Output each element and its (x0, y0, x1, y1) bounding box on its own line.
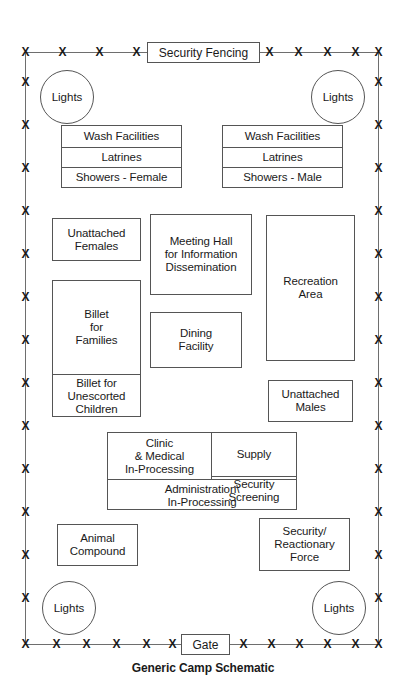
fence-post: X (322, 638, 333, 651)
clinic-medical-cell: Clinic & Medical In-Processing (108, 433, 212, 479)
lights-label: Lights (324, 602, 355, 614)
fence-post: X (322, 46, 333, 59)
animal-compound-box: Animal Compound (57, 524, 138, 566)
fence-post: X (373, 592, 384, 605)
lights-label: Lights (52, 91, 83, 103)
fence-post: X (20, 420, 31, 433)
fence-post: X (373, 119, 384, 132)
fence-post: X (167, 638, 178, 651)
fence-post: X (20, 162, 31, 175)
fence-post: X (373, 334, 384, 347)
lights-top-right: Lights (311, 70, 365, 124)
lights-bottom-left: Lights (42, 581, 96, 635)
fence-post: X (51, 638, 62, 651)
security-fencing-label: Security Fencing (147, 42, 260, 63)
fence-post: X (373, 377, 384, 390)
security-reactionary-force-box: Security/ Reactionary Force (259, 518, 350, 571)
showers-female-row: Showers - Female (62, 167, 181, 187)
recreation-area-box: Recreation Area (266, 215, 355, 361)
lights-label: Lights (323, 91, 354, 103)
fence-post: X (20, 291, 31, 304)
fence-post: X (20, 506, 31, 519)
unattached-males-box: Unattached Males (268, 380, 353, 422)
diagram-caption: Generic Camp Schematic (0, 661, 406, 675)
fence-post: X (373, 46, 384, 59)
fence-post: X (373, 205, 384, 218)
wash-facilities-female-block: Wash Facilities Latrines Showers - Femal… (61, 125, 182, 188)
fence-post: X (373, 420, 384, 433)
generic-camp-schematic: X X X X X X X X X X X X X X X X X X X X … (0, 0, 406, 700)
latrines-row: Latrines (223, 147, 342, 167)
wash-facilities-row: Wash Facilities (223, 126, 342, 147)
fence-post: X (350, 638, 361, 651)
billet-block: Billet for Families Billet for Unescorte… (52, 280, 141, 417)
fence-post: X (20, 76, 31, 89)
latrines-row: Latrines (62, 147, 181, 167)
dining-facility-box: Dining Facility (150, 312, 242, 368)
fence-post: X (373, 291, 384, 304)
fence-post: X (264, 46, 275, 59)
fence-post: X (20, 334, 31, 347)
fence-post: X (373, 76, 384, 89)
fence-post: X (141, 638, 152, 651)
supply-subcell: Supply (212, 446, 296, 463)
fence-post: X (373, 162, 384, 175)
fence-post: X (373, 506, 384, 519)
fence-post: X (20, 205, 31, 218)
fence-post: X (20, 638, 31, 651)
processing-upper-row: Clinic & Medical In-Processing Supply Se… (108, 433, 296, 479)
unattached-females-box: Unattached Females (52, 218, 141, 261)
fence-post: X (20, 377, 31, 390)
fence-post: X (111, 638, 122, 651)
fence-post: X (57, 46, 68, 59)
fence-post: X (20, 46, 31, 59)
fence-post: X (131, 46, 142, 59)
fence-post: X (373, 549, 384, 562)
fence-post: X (373, 638, 384, 651)
billet-families-row: Billet for Families (53, 281, 140, 374)
fence-post: X (294, 638, 305, 651)
fence-post: X (20, 549, 31, 562)
lights-bottom-right: Lights (312, 581, 366, 635)
lights-label: Lights (54, 602, 85, 614)
processing-block: Clinic & Medical In-Processing Supply Se… (107, 432, 297, 510)
fence-post: X (94, 46, 105, 59)
billet-unescorted-children-row: Billet for Unescorted Children (53, 374, 140, 418)
fence-post: X (373, 248, 384, 261)
administration-row: Administration\ In-Processing (108, 479, 296, 511)
security-fencing-text: Security Fencing (159, 46, 248, 60)
fence-post: X (238, 638, 249, 651)
gate-label: Gate (181, 634, 230, 655)
fence-post: X (293, 46, 304, 59)
fence-post: X (20, 119, 31, 132)
gate-text: Gate (192, 638, 218, 652)
supply-security-cell: Supply Security Screening (212, 433, 296, 479)
showers-male-row: Showers - Male (223, 167, 342, 187)
fence-post: X (20, 248, 31, 261)
meeting-hall-box: Meeting Hall for Information Disseminati… (150, 214, 252, 295)
wash-facilities-row: Wash Facilities (62, 126, 181, 147)
fence-post: X (20, 592, 31, 605)
administration-cell: Administration\ In-Processing (108, 480, 296, 511)
lights-top-left: Lights (40, 70, 94, 124)
fence-post: X (350, 46, 361, 59)
fence-post: X (81, 638, 92, 651)
fence-post: X (373, 463, 384, 476)
wash-facilities-male-block: Wash Facilities Latrines Showers - Male (222, 125, 343, 188)
fence-post: X (266, 638, 277, 651)
fence-post: X (20, 463, 31, 476)
